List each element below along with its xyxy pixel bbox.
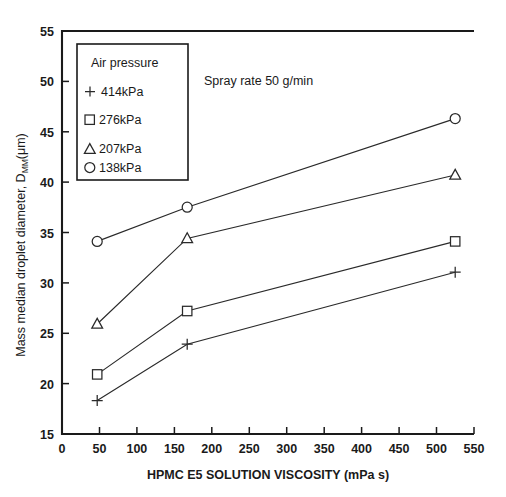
y-tick-label: 55 (40, 25, 54, 39)
x-tick-label: 500 (426, 442, 447, 456)
x-tick-label: 400 (351, 442, 372, 456)
y-tick-label: 25 (40, 327, 54, 341)
triangle-marker-icon (84, 144, 95, 154)
legend-entry-414kPa: 414kPa (85, 85, 143, 99)
legend-label: 276kPa (99, 113, 141, 127)
y-tick-label: 20 (40, 378, 54, 392)
y-axis-tick-labels: 15 20 25 30 35 40 45 50 55 (40, 25, 54, 442)
series-line-207kPa (97, 175, 455, 324)
x-tick-label: 150 (164, 442, 185, 456)
y-tick-label: 30 (40, 277, 54, 291)
y-tick-label: 40 (40, 176, 54, 190)
legend-label: 207kPa (99, 142, 141, 156)
x-tick-label: 550 (464, 442, 485, 456)
x-tick-label: 450 (389, 442, 410, 456)
circle-marker-icon (85, 163, 95, 173)
x-tick-label: 0 (59, 442, 66, 456)
legend-label: 414kPa (101, 85, 143, 99)
x-tick-label: 250 (239, 442, 260, 456)
plus-marker-icon (85, 87, 95, 97)
x-axis-title: HPMC E5 SOLUTION VISCOSITY (mPa s) (147, 468, 389, 482)
chart-figure: 0 50 100 150 200 250 300 350 400 450 500… (0, 0, 506, 497)
legend-entry-276kPa: 276kPa (85, 113, 141, 127)
x-tick-label: 50 (93, 442, 107, 456)
y-tick-label: 15 (40, 428, 54, 442)
x-tick-label: 100 (126, 442, 147, 456)
legend-title: Air pressure (91, 56, 158, 70)
y-tick-label: 35 (40, 227, 54, 241)
y-axis-title-subscript: MM (20, 159, 30, 173)
x-tick-label: 300 (276, 442, 297, 456)
legend: Air pressure 414kPa 276kPa 207kPa 138kPa (77, 44, 188, 180)
annotation-spray-rate: Spray rate 50 g/min (204, 74, 313, 88)
legend-entry-138kPa: 138kPa (85, 161, 142, 175)
x-tick-label: 200 (201, 442, 222, 456)
y-axis-title: Mass median droplet diameter, D (14, 173, 28, 356)
x-axis-tick-labels: 0 50 100 150 200 250 300 350 400 450 500… (59, 442, 485, 456)
svg-text:Mass median droplet diameter,: Mass median droplet diameter, DMM(μm) (14, 133, 30, 357)
x-tick-label: 350 (314, 442, 335, 456)
legend-entry-207kPa: 207kPa (84, 142, 141, 156)
line-chart-svg: 0 50 100 150 200 250 300 350 400 450 500… (0, 0, 506, 497)
series-markers-276kPa (93, 237, 460, 379)
series-line-276kPa (97, 241, 455, 374)
legend-label: 138kPa (99, 161, 141, 175)
square-marker-icon (85, 115, 94, 124)
y-tick-label: 45 (40, 126, 54, 140)
series-markers-207kPa (92, 169, 461, 328)
y-axis-title-group: Mass median droplet diameter, DMM(μm) (14, 133, 30, 357)
y-axis-title-units: (μm) (14, 133, 28, 159)
y-tick-label: 50 (40, 75, 54, 89)
